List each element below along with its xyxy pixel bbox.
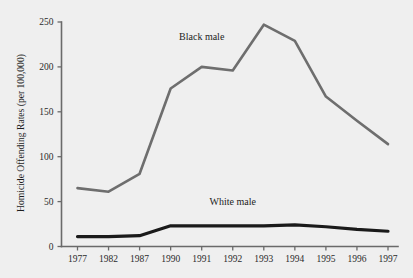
series-label-white-male: White male (210, 196, 257, 207)
series-line-white-male (78, 225, 389, 237)
y-tick-label: 0 (49, 242, 54, 252)
y-tick-label: 150 (39, 107, 54, 117)
x-tick-label: 1991 (192, 254, 211, 264)
series-label-black-male: Black male (179, 31, 225, 42)
x-tick-label: 1997 (379, 254, 398, 264)
x-tick-label: 1995 (316, 254, 335, 264)
x-tick-label: 1977 (68, 254, 87, 264)
x-tick-group: 1977198219871990199119921993199419951996… (68, 247, 398, 264)
y-axis: 050100150200250 (39, 17, 61, 252)
y-tick-label: 100 (39, 152, 54, 162)
x-tick-label: 1982 (99, 254, 118, 264)
x-tick-label: 1994 (285, 254, 304, 264)
y-tick-label: 50 (44, 197, 54, 207)
series-line-black-male (78, 25, 389, 192)
y-tick-label: 250 (39, 17, 54, 27)
x-tick-label: 1996 (347, 254, 366, 264)
y-tick-label: 200 (39, 62, 54, 72)
x-tick-label: 1992 (223, 254, 242, 264)
line-chart: Homicide Offending Rates (per 100,000) 0… (0, 0, 413, 278)
x-tick-label: 1987 (130, 254, 149, 264)
y-axis-title: Homicide Offending Rates (per 100,000) (15, 54, 27, 212)
chart-figure: Homicide Offending Rates (per 100,000) 0… (0, 0, 413, 278)
x-tick-label: 1990 (161, 254, 180, 264)
x-tick-label: 1993 (254, 254, 273, 264)
x-axis: 1977198219871990199119921993199419951996… (62, 247, 399, 264)
y-tick-group: 050100150200250 (39, 17, 61, 252)
series-annotations: Black male White male (179, 31, 256, 207)
